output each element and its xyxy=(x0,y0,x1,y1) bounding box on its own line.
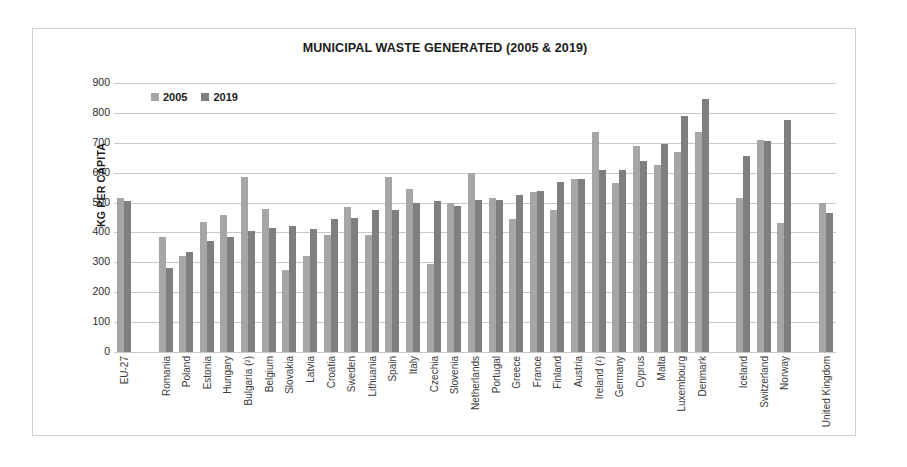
x-label-cell: Romania xyxy=(155,354,176,459)
x-axis-label: Belgium xyxy=(263,356,274,392)
bar-group-spacer xyxy=(712,83,733,352)
x-label-cell: Poland xyxy=(176,354,197,459)
x-axis-label: United Kingdom xyxy=(820,356,831,427)
y-tick-label: 100 xyxy=(70,315,110,327)
x-axis-label: Romania xyxy=(160,356,171,396)
bar-group xyxy=(114,83,135,352)
x-label-cell: United Kingdom xyxy=(815,354,836,459)
x-label-cell: Estonia xyxy=(197,354,218,459)
x-axis-label: Sweden xyxy=(346,356,357,392)
bar-group xyxy=(630,83,651,352)
x-axis-label: Finland xyxy=(552,356,563,389)
bar-2005 xyxy=(592,132,599,352)
bar-2005 xyxy=(282,270,289,352)
x-axis-label: Malta xyxy=(655,356,666,380)
bar-group xyxy=(258,83,279,352)
bar-2019 xyxy=(269,228,276,352)
x-label-cell: France xyxy=(527,354,548,459)
x-axis-label: Slovenia xyxy=(449,356,460,394)
bar-2019 xyxy=(599,170,606,352)
x-label-cell: Germany xyxy=(609,354,630,459)
bar-2005 xyxy=(468,173,475,352)
bar-2005 xyxy=(571,179,578,352)
x-label-cell: Portugal xyxy=(485,354,506,459)
x-axis-label: Portugal xyxy=(490,356,501,393)
x-axis-label: Austria xyxy=(573,356,584,387)
bar-2019 xyxy=(619,170,626,352)
bar-2005 xyxy=(530,192,537,352)
y-axis-title: KG PER CAPITA xyxy=(95,105,107,265)
bar-group xyxy=(774,83,795,352)
x-axis-label: Norway xyxy=(779,356,790,390)
x-label-cell: Sweden xyxy=(341,354,362,459)
y-tick-label: 800 xyxy=(70,106,110,118)
bar-series-container xyxy=(114,83,836,352)
bar-2019 xyxy=(186,252,193,352)
bar-2005 xyxy=(365,235,372,352)
x-axis-label: Czechia xyxy=(428,356,439,392)
x-axis-label: Bulgaria (²) xyxy=(243,356,254,405)
y-tick-label: 300 xyxy=(70,255,110,267)
bar-2005 xyxy=(220,215,227,352)
bar-2005 xyxy=(612,183,619,352)
bar-2019 xyxy=(826,213,833,352)
y-tick-label: 400 xyxy=(70,225,110,237)
bar-group xyxy=(733,83,754,352)
bar-group xyxy=(155,83,176,352)
x-label-cell: Luxembourg xyxy=(671,354,692,459)
x-label-cell: Spain xyxy=(382,354,403,459)
bar-2019 xyxy=(454,206,461,352)
bar-2005 xyxy=(674,152,681,352)
x-axis-label: Poland xyxy=(181,356,192,387)
bar-2019 xyxy=(640,161,647,352)
bar-2019 xyxy=(227,237,234,352)
bar-2005 xyxy=(324,235,331,352)
bar-2005 xyxy=(695,132,702,352)
x-axis-label: EU-27 xyxy=(119,356,130,384)
bar-2005 xyxy=(117,198,124,352)
x-axis-label: Spain xyxy=(387,356,398,382)
bar-group xyxy=(341,83,362,352)
bar-2019 xyxy=(207,241,214,352)
bar-group xyxy=(300,83,321,352)
bar-group xyxy=(197,83,218,352)
bar-2005 xyxy=(777,223,784,352)
x-axis-label: Italy xyxy=(408,356,419,374)
x-label-cell: Slovakia xyxy=(279,354,300,459)
bar-group xyxy=(527,83,548,352)
bar-group xyxy=(692,83,713,352)
bar-2005 xyxy=(406,189,413,352)
chart-frame: MUNICIPAL WASTE GENERATED (2005 & 2019) … xyxy=(32,28,856,436)
x-label-cell: Iceland xyxy=(733,354,754,459)
bar-2019 xyxy=(166,268,173,352)
bar-2019 xyxy=(764,141,771,352)
bar-group xyxy=(238,83,259,352)
bar-2019 xyxy=(248,231,255,352)
x-label-cell: Norway xyxy=(774,354,795,459)
bar-2019 xyxy=(351,218,358,353)
bar-2005 xyxy=(550,210,557,352)
bar-2019 xyxy=(784,120,791,352)
bar-2005 xyxy=(303,256,310,352)
bar-2019 xyxy=(392,210,399,352)
bar-group xyxy=(588,83,609,352)
x-axis-label: Denmark xyxy=(696,356,707,397)
bar-group xyxy=(609,83,630,352)
bar-group xyxy=(485,83,506,352)
bar-group xyxy=(217,83,238,352)
x-label-cell: Netherlands xyxy=(465,354,486,459)
x-label-cell: Lithuania xyxy=(362,354,383,459)
bar-group xyxy=(320,83,341,352)
x-label-cell: Bulgaria (²) xyxy=(238,354,259,459)
x-axis-label: Lithuania xyxy=(366,356,377,397)
x-label-cell xyxy=(795,354,816,459)
bar-2005 xyxy=(819,203,826,352)
bar-2005 xyxy=(654,165,661,352)
y-tick-label: 600 xyxy=(70,166,110,178)
gridline xyxy=(114,352,836,353)
x-axis-label: Slovakia xyxy=(284,356,295,394)
bar-2019 xyxy=(516,195,523,352)
x-axis-label: Latvia xyxy=(304,356,315,383)
bar-group xyxy=(423,83,444,352)
bar-2005 xyxy=(489,198,496,352)
